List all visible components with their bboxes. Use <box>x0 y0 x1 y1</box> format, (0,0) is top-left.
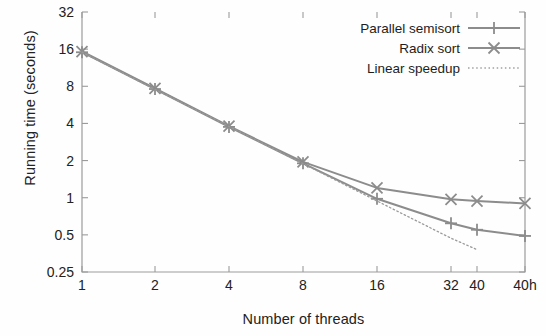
chart-figure: Running time (seconds) Number of threads… <box>0 0 546 336</box>
legend-item: Radix sort <box>352 38 522 58</box>
legend-item-label: Parallel semisort <box>360 21 466 36</box>
marker-plus <box>471 224 483 236</box>
legend-item: Linear speedup <box>352 58 522 78</box>
legend-item: Parallel semisort <box>352 18 522 38</box>
legend-item-label: Linear speedup <box>367 61 466 76</box>
legend-item-label: Radix sort <box>399 41 466 56</box>
marker-plus <box>488 22 500 34</box>
series-line-0 <box>82 52 525 236</box>
marker-plus <box>519 230 531 242</box>
legend-item-swatch <box>466 39 522 57</box>
legend-item-swatch <box>466 59 522 77</box>
legend-item-swatch <box>466 19 522 37</box>
marker-plus <box>445 217 457 229</box>
chart-legend: Parallel semisortRadix sortLinear speedu… <box>352 18 522 78</box>
